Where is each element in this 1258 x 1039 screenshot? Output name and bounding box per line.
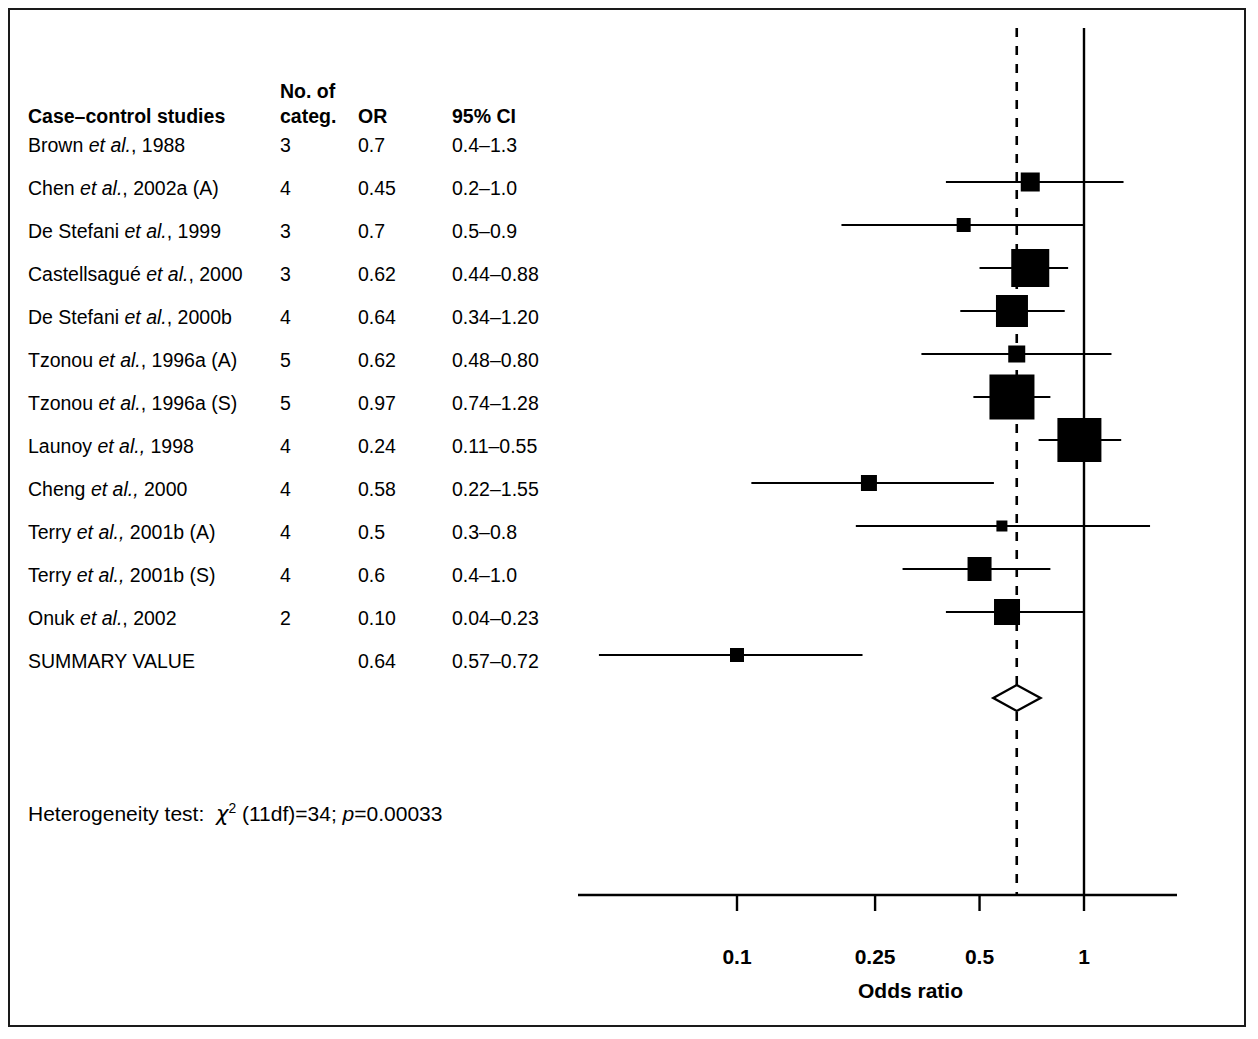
study-name: Tzonou et al., 1996a (A) (28, 349, 278, 372)
study-confidence-interval: 0.48–0.80 (452, 349, 612, 372)
study-confidence-interval: 0.11–0.55 (452, 435, 612, 458)
study-confidence-interval: 0.5–0.9 (452, 220, 612, 243)
study-categories: 4 (280, 435, 340, 458)
study-odds-ratio: 0.7 (358, 134, 444, 157)
table-row: Chen et al., 2002a (A)40.450.2–1.0 (28, 177, 588, 220)
study-name: De Stefani et al., 1999 (28, 220, 278, 243)
study-odds-ratio: 0.24 (358, 435, 444, 458)
study-confidence-interval: 0.2–1.0 (452, 177, 612, 200)
header-ci: 95% CI (452, 105, 612, 128)
study-name: Castellsagué et al., 2000 (28, 263, 278, 286)
x-axis-title: Odds ratio (801, 979, 1021, 1003)
study-odds-ratio: 0.64 (358, 650, 444, 673)
study-categories: 4 (280, 306, 340, 329)
header-study: Case–control studies (28, 105, 278, 128)
study-confidence-interval: 0.57–0.72 (452, 650, 612, 673)
study-categories: 2 (280, 607, 340, 630)
study-categories: 4 (280, 564, 340, 587)
study-odds-ratio: 0.10 (358, 607, 444, 630)
heterogeneity-df: (11df)=34; (242, 802, 337, 825)
study-odds-ratio: 0.6 (358, 564, 444, 587)
table-row: De Stefani et al., 199930.70.5–0.9 (28, 220, 588, 263)
study-name: Terry et al., 2001b (S) (28, 564, 278, 587)
header-categories-line1: No. of (280, 80, 335, 103)
study-confidence-interval: 0.22–1.55 (452, 478, 612, 501)
x-axis-tick-label: 0.1 (697, 945, 777, 969)
study-confidence-interval: 0.3–0.8 (452, 521, 612, 544)
table-row: Brown et al., 198830.70.4–1.3 (28, 134, 588, 177)
x-axis-tick-label: 0.25 (835, 945, 915, 969)
table-row: Castellsagué et al., 200030.620.44–0.88 (28, 263, 588, 306)
study-name: Onuk et al., 2002 (28, 607, 278, 630)
table-row: Tzonou et al., 1996a (A)50.620.48–0.80 (28, 349, 588, 392)
study-categories: 3 (280, 220, 340, 243)
study-name: Tzonou et al., 1996a (S) (28, 392, 278, 415)
p-symbol: p (343, 802, 355, 825)
study-odds-ratio: 0.62 (358, 349, 444, 372)
table-row: Tzonou et al., 1996a (S)50.970.74–1.28 (28, 392, 588, 435)
study-odds-ratio: 0.7 (358, 220, 444, 243)
study-categories: 4 (280, 177, 340, 200)
study-categories: 4 (280, 521, 340, 544)
table-row: Onuk et al., 200220.100.04–0.23 (28, 607, 588, 650)
heterogeneity-test-annotation: Heterogeneity test: χ2 (11df)=34; p=0.00… (28, 800, 442, 826)
study-name: Terry et al., 2001b (A) (28, 521, 278, 544)
study-odds-ratio: 0.45 (358, 177, 444, 200)
table-row: Launoy et al., 199840.240.11–0.55 (28, 435, 588, 478)
study-odds-ratio: 0.64 (358, 306, 444, 329)
study-confidence-interval: 0.04–0.23 (452, 607, 612, 630)
table-row: Cheng et al., 200040.580.22–1.55 (28, 478, 588, 521)
chi-symbol: χ (216, 802, 228, 826)
study-categories: 3 (280, 134, 340, 157)
chi-exponent: 2 (228, 800, 236, 816)
forest-plot-figure: No. of Case–control studies categ. OR 95… (0, 0, 1258, 1039)
study-name: Cheng et al., 2000 (28, 478, 278, 501)
header-categories-line2: categ. (280, 105, 340, 128)
study-name: Brown et al., 1988 (28, 134, 278, 157)
table-row: Terry et al., 2001b (A)40.50.3–0.8 (28, 521, 588, 564)
study-name: SUMMARY VALUE (28, 650, 278, 673)
x-axis-tick-label: 0.5 (940, 945, 1020, 969)
study-confidence-interval: 0.74–1.28 (452, 392, 612, 415)
table-body: Brown et al., 198830.70.4–1.3Chen et al.… (28, 134, 588, 693)
study-confidence-interval: 0.44–0.88 (452, 263, 612, 286)
heterogeneity-prefix: Heterogeneity test: (28, 802, 204, 825)
study-confidence-interval: 0.4–1.3 (452, 134, 612, 157)
header-or: OR (358, 105, 444, 128)
study-odds-ratio: 0.62 (358, 263, 444, 286)
study-categories: 5 (280, 392, 340, 415)
table-row: Terry et al., 2001b (S)40.60.4–1.0 (28, 564, 588, 607)
study-name: Chen et al., 2002a (A) (28, 177, 278, 200)
study-odds-ratio: 0.58 (358, 478, 444, 501)
table-header-row: No. of Case–control studies categ. OR 95… (28, 72, 588, 134)
study-name: Launoy et al., 1998 (28, 435, 278, 458)
studies-table: No. of Case–control studies categ. OR 95… (28, 72, 588, 693)
p-value: =0.00033 (354, 802, 442, 825)
study-odds-ratio: 0.5 (358, 521, 444, 544)
study-categories: 4 (280, 478, 340, 501)
study-categories: 3 (280, 263, 340, 286)
study-name: De Stefani et al., 2000b (28, 306, 278, 329)
study-categories: 5 (280, 349, 340, 372)
x-axis-tick-label: 1 (1044, 945, 1124, 969)
study-odds-ratio: 0.97 (358, 392, 444, 415)
study-confidence-interval: 0.34–1.20 (452, 306, 612, 329)
study-confidence-interval: 0.4–1.0 (452, 564, 612, 587)
table-row: De Stefani et al., 2000b40.640.34–1.20 (28, 306, 588, 349)
summary-row: SUMMARY VALUE0.640.57–0.72 (28, 650, 588, 693)
